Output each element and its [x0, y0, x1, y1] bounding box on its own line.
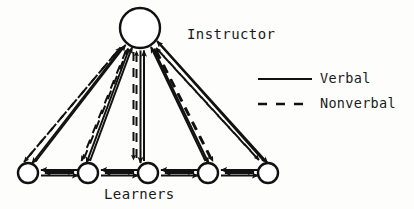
- legend-swatches: [258, 79, 312, 104]
- instructor-node[interactable]: [120, 8, 160, 48]
- edge-learner-1-learner-2: [41, 170, 78, 176]
- learner-node[interactable]: [258, 163, 278, 183]
- edge-learner-4-learner-5: [221, 170, 258, 176]
- learner-node[interactable]: [78, 163, 98, 183]
- learner-node[interactable]: [138, 163, 158, 183]
- instructor-label: Instructor: [187, 27, 275, 41]
- edge-instructor-learner-4-nonverbal: [155, 49, 214, 162]
- legend-item-verbal-label: Verbal: [320, 72, 371, 86]
- edge-instructor-learner-4-verbal: [151, 47, 209, 163]
- edge-learner-3-learner-4: [161, 170, 198, 176]
- diagram-canvas: Instructor Learners Verbal Nonverbal: [0, 0, 414, 209]
- learner-node[interactable]: [18, 163, 38, 183]
- edge-instructor-learner-5-verbal: [157, 41, 268, 163]
- learners-label: Learners: [104, 187, 175, 201]
- learner-node[interactable]: [198, 163, 218, 183]
- edge-instructor-learner-1-nonverbal: [24, 48, 121, 163]
- edge-learner-2-learner-3: [101, 170, 138, 176]
- edge-instructor-learner-3-verbal: [141, 51, 145, 164]
- legend-item-nonverbal-label: Nonverbal: [320, 97, 396, 111]
- edge-instructor-learner-5-nonverbal: [156, 48, 259, 160]
- edge-instructor-learner-3-nonverbal: [134, 51, 137, 160]
- edges-instructor-to-learners: [24, 41, 268, 164]
